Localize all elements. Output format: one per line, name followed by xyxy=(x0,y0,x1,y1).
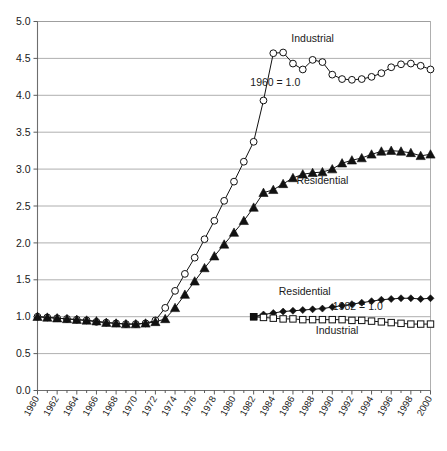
marker-open-square xyxy=(309,316,315,322)
marker-open-circle xyxy=(319,59,326,66)
marker-open-circle xyxy=(231,178,238,185)
marker-filled-diamond xyxy=(388,295,395,302)
marker-open-square xyxy=(417,321,423,327)
x-tick-label: 2000 xyxy=(414,394,434,418)
marker-open-square xyxy=(280,316,286,322)
marker-filled-triangle xyxy=(328,165,337,173)
marker-filled-triangle xyxy=(249,203,258,211)
x-tick-label: 1964 xyxy=(60,394,80,418)
residential-1982-label: Residential xyxy=(279,285,331,297)
marker-open-square xyxy=(427,321,433,327)
y-tick-label: 1.0 xyxy=(16,310,31,322)
marker-filled-diamond xyxy=(407,295,414,302)
marker-open-square xyxy=(329,316,335,322)
marker-open-circle xyxy=(427,66,434,73)
x-tick-label: 1992 xyxy=(336,394,356,418)
x-tick-label: 1982 xyxy=(237,394,257,418)
x-tick-label: 1986 xyxy=(277,394,297,418)
y-tick-label: 4.0 xyxy=(16,89,31,101)
marker-open-circle xyxy=(398,61,405,68)
x-tick-label: 1988 xyxy=(296,394,316,418)
marker-open-circle xyxy=(329,71,336,78)
marker-open-square xyxy=(408,321,414,327)
x-tick-label: 1976 xyxy=(178,394,198,418)
marker-open-square xyxy=(319,316,325,322)
marker-open-square xyxy=(260,314,266,320)
marker-filled-triangle xyxy=(426,150,435,158)
marker-open-circle xyxy=(221,197,228,204)
marker-filled-diamond xyxy=(427,295,434,302)
ytick-layer: 0.00.51.01.52.02.53.03.54.04.55.0 xyxy=(16,15,38,396)
marker-filled-diamond xyxy=(417,295,424,302)
marker-open-square xyxy=(349,317,355,323)
marker-open-square xyxy=(359,317,365,323)
y-tick-label: 0.5 xyxy=(16,347,31,359)
x-tick-label: 1998 xyxy=(394,394,414,418)
y-tick-label: 2.0 xyxy=(16,237,31,249)
marker-open-square xyxy=(270,315,276,321)
marker-open-circle xyxy=(388,64,395,71)
marker-filled-triangle xyxy=(180,290,189,298)
x-tick-label: 1978 xyxy=(198,394,218,418)
marker-open-circle xyxy=(290,60,297,67)
marker-filled-diamond xyxy=(299,307,306,314)
x-tick-label: 1974 xyxy=(159,394,179,418)
marker-open-circle xyxy=(378,70,385,77)
line-chart: 0.00.51.01.52.02.53.03.54.04.55.0 196019… xyxy=(0,0,447,451)
marker-filled-diamond xyxy=(309,306,316,313)
marker-open-circle xyxy=(191,254,198,261)
marker-filled-diamond xyxy=(289,307,296,314)
y-tick-label: 4.5 xyxy=(16,52,31,64)
x-tick-label: 1966 xyxy=(80,394,100,418)
marker-filled-triangle xyxy=(367,150,376,158)
marker-filled-triangle xyxy=(259,188,268,196)
series-layer xyxy=(33,49,435,328)
marker-open-circle xyxy=(201,236,208,243)
marker-open-circle xyxy=(349,76,356,83)
x-tick-label: 1970 xyxy=(119,394,139,418)
marker-open-circle xyxy=(270,50,277,57)
marker-filled-diamond xyxy=(280,308,287,315)
marker-open-circle xyxy=(211,217,218,224)
x-tick-label: 1990 xyxy=(316,394,336,418)
marker-open-circle xyxy=(417,62,424,69)
industrial-1982-label: Industrial xyxy=(316,324,359,336)
marker-filled-square xyxy=(250,314,256,320)
marker-filled-triangle xyxy=(357,153,366,161)
marker-open-circle xyxy=(181,270,188,277)
marker-open-circle xyxy=(172,287,179,294)
marker-open-square xyxy=(378,319,384,325)
series-0 xyxy=(34,49,434,327)
x-tick-label: 1996 xyxy=(375,394,395,418)
y-tick-label: 2.5 xyxy=(16,200,31,212)
y-tick-label: 3.0 xyxy=(16,163,31,175)
marker-filled-triangle xyxy=(170,303,179,311)
residential-1960-label: Residential xyxy=(296,174,348,186)
marker-filled-triangle xyxy=(387,146,396,154)
x-tick-label: 1984 xyxy=(257,394,277,418)
marker-open-square xyxy=(398,320,404,326)
marker-open-circle xyxy=(250,138,257,145)
x-tick-label: 1994 xyxy=(355,394,375,418)
y-tick-label: 3.5 xyxy=(16,126,31,138)
marker-open-circle xyxy=(309,56,316,63)
y-tick-label: 1.5 xyxy=(16,273,31,285)
marker-open-circle xyxy=(162,304,169,311)
base-1960-annotation: 1960 = 1.0 xyxy=(250,76,300,88)
x-tick-label: 1960 xyxy=(21,394,41,418)
x-tick-label: 1972 xyxy=(139,394,159,418)
marker-filled-triangle xyxy=(269,185,278,193)
y-tick-label: 5.0 xyxy=(16,15,31,27)
xtick-layer: 1960196219641966196819701972197419761978… xyxy=(21,391,434,418)
x-tick-label: 1980 xyxy=(218,394,238,418)
marker-open-square xyxy=(368,318,374,324)
marker-open-circle xyxy=(407,60,414,67)
marker-open-circle xyxy=(240,158,247,165)
marker-open-circle xyxy=(339,76,346,83)
chart-container: 0.00.51.01.52.02.53.03.54.04.55.0 196019… xyxy=(0,0,447,451)
series-line xyxy=(38,53,431,325)
marker-filled-diamond xyxy=(398,295,405,302)
marker-filled-triangle xyxy=(239,216,248,224)
x-tick-label: 1962 xyxy=(41,394,61,418)
marker-open-square xyxy=(290,316,296,322)
